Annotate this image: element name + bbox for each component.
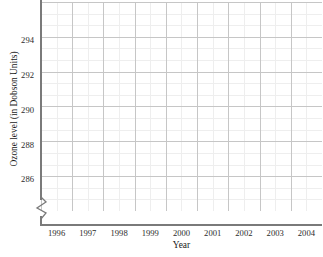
x-tick-label: 2002 [235, 228, 252, 238]
x-axis-title: Year [41, 240, 322, 250]
y-tick-label: 290 [21, 105, 34, 114]
y-tick-label: 288 [21, 140, 34, 149]
x-tick-label: 1999 [142, 228, 159, 238]
x-tick-label: 1998 [111, 228, 128, 238]
y-tick-label: 286 [21, 175, 34, 184]
ozone-level-chart: 294 292 290 288 286 1996 1997 1998 1999 … [0, 0, 323, 257]
chart-title [0, 0, 323, 1]
major-gridlines [41, 2, 322, 211]
x-tick-label: 2001 [204, 228, 221, 238]
y-tick-label: 292 [21, 70, 34, 79]
y-axis-ticks: 294 292 290 288 286 [0, 0, 38, 257]
x-tick-label: 2003 [267, 228, 284, 238]
plot-area [41, 2, 322, 211]
x-axis-ticks: 1996 1997 1998 1999 2000 2001 2002 2003 … [41, 228, 322, 240]
y-tick-label: 294 [21, 36, 34, 45]
x-axis-line [40, 224, 322, 226]
x-tick-label: 1996 [48, 228, 65, 238]
y-axis-title: Ozone level (in Dobson Units) [9, 9, 19, 209]
y-axis-line [40, 0, 42, 200]
x-tick-label: 1997 [79, 228, 96, 238]
x-tick-label: 2004 [298, 228, 315, 238]
x-tick-label: 2000 [173, 228, 190, 238]
